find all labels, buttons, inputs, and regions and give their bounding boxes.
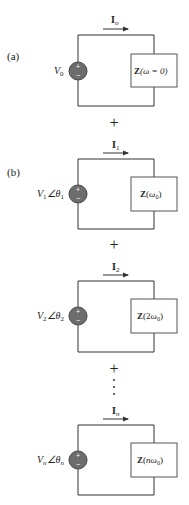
superposition-diagram: (a) Io + − V0 Z(ω = 0) + (b) I1 + − V1∠θ… xyxy=(0,0,189,505)
plus-operator: + xyxy=(109,360,118,377)
minus-polarity: − xyxy=(76,195,80,202)
plus-polarity: + xyxy=(76,186,80,193)
minus-polarity: − xyxy=(76,72,80,79)
plus-polarity: + xyxy=(76,63,80,70)
minus-polarity: − xyxy=(76,317,80,324)
impedance-label: Z(ω = 0) xyxy=(134,66,167,76)
part-label-b: (b) xyxy=(7,166,20,179)
source-label: V2∠θ2 xyxy=(37,310,65,323)
current-label: I2 xyxy=(112,261,120,274)
plus-operator: + xyxy=(109,114,118,131)
ellipsis-dots xyxy=(113,379,115,395)
source-label: V0 xyxy=(54,65,64,78)
plus-polarity: + xyxy=(76,452,80,459)
circuit-b1: (b) I1 + − V1∠θ1 Z(ω0) xyxy=(7,139,177,229)
impedance-label: Z(nω0) xyxy=(137,455,163,466)
circuit-bn: In + − Vn∠θn Z(nω0) xyxy=(37,405,177,495)
current-label: In xyxy=(112,405,120,418)
circuit-a: (a) Io + − V0 Z(ω = 0) xyxy=(7,14,177,106)
part-label-a: (a) xyxy=(7,50,20,63)
current-label: I1 xyxy=(112,139,120,152)
source-label: Vn∠θn xyxy=(37,454,65,467)
circuit-b2: I2 + − V2∠θ2 Z(2ω0) xyxy=(37,261,177,352)
minus-polarity: − xyxy=(76,461,80,468)
current-label: Io xyxy=(111,14,119,27)
source-label: V1∠θ1 xyxy=(37,188,65,201)
plus-operator: + xyxy=(109,236,118,253)
plus-polarity: + xyxy=(76,308,80,315)
impedance-label: Z(2ω0) xyxy=(137,311,163,322)
impedance-label: Z(ω0) xyxy=(140,189,161,200)
